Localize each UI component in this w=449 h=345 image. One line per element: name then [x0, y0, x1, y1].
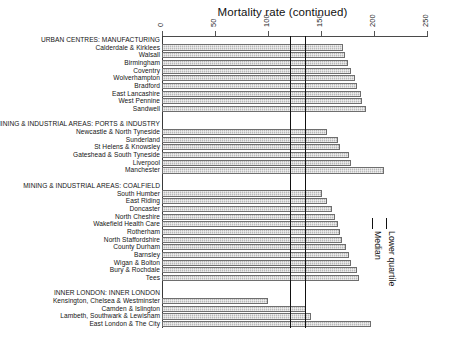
legend-rule-median — [372, 218, 373, 229]
bar — [162, 298, 268, 304]
category-label: East London & The City — [89, 320, 160, 327]
chart-title: Mortality rate (continued) — [175, 6, 390, 18]
category-label: Newcastle & North Tyneside — [76, 128, 160, 135]
x-tick-label-250: 250 — [421, 14, 430, 27]
category-label: North Cheshire — [115, 213, 160, 220]
category-label: North Staffordshire — [104, 236, 160, 243]
category-label: Coventry — [133, 67, 160, 74]
reference-line-median — [305, 36, 306, 328]
x-tick-100 — [268, 31, 269, 36]
group-header-label: MINING & INDUSTRIAL AREAS: PORTS & INDUS… — [0, 120, 160, 127]
bar — [162, 198, 327, 204]
bar — [162, 106, 366, 112]
category-label: Sandwell — [133, 105, 160, 112]
bar — [162, 83, 357, 89]
bar — [162, 206, 332, 212]
x-tick-label-100: 100 — [262, 14, 271, 27]
bar — [162, 190, 322, 196]
x-tick-150 — [321, 31, 322, 36]
bar — [162, 68, 351, 74]
category-label: Calderdale & Kirklees — [96, 44, 160, 51]
category-label: East Riding — [126, 197, 160, 204]
category-label: Birmingham — [124, 59, 160, 66]
category-label: Kensington, Chelsea & Westminster — [53, 297, 160, 304]
legend-label-lower-quartile: Lower quartile — [387, 231, 397, 286]
bar — [162, 229, 340, 235]
bar — [162, 214, 335, 220]
chart-legend: MedianLower quartile — [372, 218, 444, 330]
category-label: Tees — [146, 274, 160, 281]
bar — [162, 91, 361, 97]
category-label: Gateshead & South Tyneside — [73, 151, 160, 158]
category-label: Sunderland — [126, 136, 160, 143]
category-label: Doncaster — [129, 205, 160, 212]
category-label: Lambeth, Southwark & Lewisham — [60, 312, 160, 319]
category-label: Wigan & Bolton — [114, 259, 160, 266]
reference-line-lower-quartile — [290, 36, 291, 328]
bar — [162, 267, 357, 273]
x-tick-50 — [215, 31, 216, 36]
bar — [162, 129, 327, 135]
x-tick-label-50: 50 — [209, 18, 218, 27]
bar — [162, 252, 349, 258]
bar — [162, 75, 355, 81]
category-label: County Durham — [113, 243, 160, 250]
x-tick-label-150: 150 — [315, 14, 324, 27]
category-label: South Humber — [117, 190, 160, 197]
group-header-label: INNER LONDON: INNER LONDON — [54, 289, 160, 296]
bar — [162, 152, 349, 158]
category-label: Liverpool — [133, 159, 160, 166]
x-tick-label-0: 0 — [156, 23, 165, 27]
bar — [162, 167, 384, 173]
mortality-rate-bar-chart: Mortality rate (continued) 0501001502002… — [0, 0, 449, 345]
legend-label-median: Median — [373, 231, 383, 260]
category-label: Manchester — [125, 166, 160, 173]
bar — [162, 221, 338, 227]
bar — [162, 321, 371, 327]
x-tick-0 — [162, 31, 163, 36]
x-tick-250 — [427, 31, 428, 36]
category-label: Wakefield Health Care — [93, 220, 160, 227]
bar — [162, 44, 343, 50]
bar — [162, 244, 346, 250]
category-label: St Helens & Knowsley — [94, 143, 160, 150]
legend-rule-lower-quartile — [386, 218, 387, 229]
category-label: Walsall — [139, 51, 160, 58]
category-label: Rotherham — [127, 228, 160, 235]
group-header-label: MINING & INDUSTRIAL AREAS: COALFIELD — [23, 182, 160, 189]
x-tick-label-200: 200 — [368, 14, 377, 27]
bar — [162, 137, 338, 143]
bar — [162, 313, 311, 319]
category-label: Bradford — [134, 82, 160, 89]
group-header-label: URBAN CENTRES: MANUFACTURING — [41, 36, 160, 43]
bar — [162, 237, 342, 243]
bar — [162, 306, 306, 312]
category-label: Wolverhampton — [113, 74, 160, 81]
bar — [162, 260, 351, 266]
x-tick-200 — [374, 31, 375, 36]
bar — [162, 275, 359, 281]
bar — [162, 52, 345, 58]
category-label: Camden & Islington — [102, 305, 160, 312]
bar — [162, 98, 362, 104]
bar — [162, 60, 348, 66]
category-label: East Lancashire — [112, 90, 160, 97]
category-label: Barnsley — [134, 251, 160, 258]
bar — [162, 144, 340, 150]
category-label: Bury & Rochdale — [110, 266, 160, 273]
category-label: West Pennine — [118, 97, 160, 104]
bar — [162, 160, 351, 166]
